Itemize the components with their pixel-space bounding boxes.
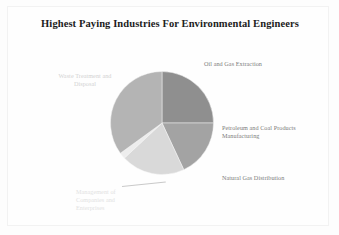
chart-screenshot: Highest Paying Industries For Environmen… [0, 0, 339, 235]
pie-label-petroleum-and-coal-products-manufacturing: Petroleum and Coal Products Manufacturin… [222, 124, 308, 140]
pie-slice [162, 72, 214, 124]
pie-label-management-of-companies-and-enterprises: Management of Companies and Enterprises [76, 188, 138, 213]
pie-label-waste-treatment-and-disposal: Waste Treatment and Disposal [54, 72, 116, 88]
pie-slice-group [111, 72, 214, 175]
pie-label-oil-and-gas-extraction: Oil and Gas Extraction [204, 60, 290, 68]
pie-label-natural-gas-distribution: Natural Gas Distribution [222, 174, 302, 182]
pie-chart [110, 71, 214, 175]
pie-chart-svg [110, 71, 214, 175]
chart-title: Highest Paying Industries For Environmen… [36, 17, 304, 30]
